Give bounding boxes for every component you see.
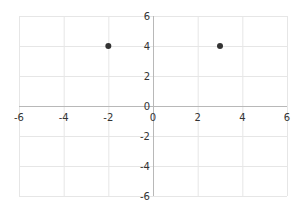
x-tick-label: -4 [59, 112, 69, 123]
y-tick-label: -6 [140, 191, 150, 202]
data-point [105, 43, 111, 49]
x-tick-label: 6 [284, 112, 290, 123]
y-tick-label: 2 [144, 71, 150, 82]
x-tick-labels: -6-4-20246 [14, 112, 290, 123]
x-tick-label: 4 [239, 112, 245, 123]
y-tick-label: -2 [140, 131, 150, 142]
x-tick-label: -6 [14, 112, 24, 123]
y-tick-label: 6 [144, 11, 150, 22]
scatter-chart: -6-4-20246 6420-2-4-6 [0, 0, 302, 207]
y-tick-label: 4 [144, 41, 150, 52]
y-tick-label: 0 [144, 101, 150, 112]
data-point [217, 43, 223, 49]
axes [19, 16, 287, 196]
x-tick-label: 2 [194, 112, 200, 123]
x-tick-label: -2 [103, 112, 113, 123]
x-tick-label: 0 [150, 112, 156, 123]
y-tick-label: -4 [140, 161, 150, 172]
